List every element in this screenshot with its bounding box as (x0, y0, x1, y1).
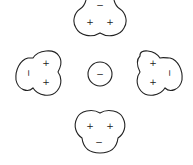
hydrogen-charge: + (86, 121, 94, 131)
water-molecule-right: − + + (137, 51, 182, 95)
central-ion: − (88, 62, 112, 86)
molecule-outline (16, 51, 61, 95)
hydrogen-charge: + (86, 17, 94, 27)
water-molecule-left: − + + (16, 51, 61, 95)
oxygen-charge: − (96, 0, 104, 10)
hydrogen-charge: + (149, 58, 157, 68)
ion-charge: − (96, 69, 104, 79)
hydrogen-charge: + (42, 58, 50, 68)
water-molecule-top: − + + (74, 0, 126, 36)
hydration-diagram: − + + − + + − − + + + + − (0, 0, 193, 165)
hydrogen-charge: + (149, 77, 157, 87)
oxygen-charge: − (165, 69, 175, 77)
hydrogen-charge: + (106, 17, 114, 27)
hydrogen-charge: + (42, 77, 50, 87)
oxygen-charge: − (95, 137, 103, 147)
oxygen-charge: − (24, 69, 34, 77)
hydrogen-charge: + (106, 121, 114, 131)
water-molecule-bottom: + + − (75, 111, 125, 153)
